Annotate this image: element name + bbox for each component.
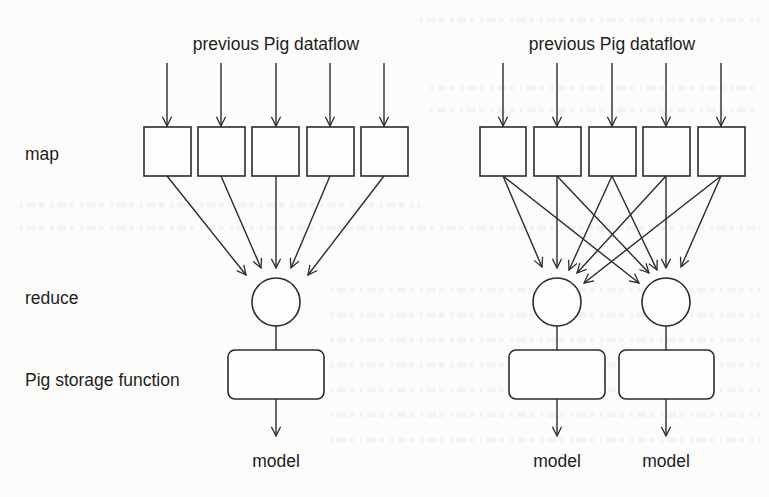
- diagram-canvas: map reduce Pig storage function previous…: [0, 0, 769, 497]
- left-diagram: previous Pig dataflow model: [144, 34, 408, 471]
- map-task-box: [534, 127, 581, 176]
- output-model-label: model: [252, 451, 300, 471]
- storage-function-box: [228, 350, 324, 399]
- reducer-node: [533, 278, 581, 326]
- map-task-box: [252, 127, 299, 176]
- storage-function-box: [619, 350, 714, 399]
- storage-function-box: [509, 350, 605, 399]
- map-task-box: [144, 127, 191, 176]
- row-label-reduce: reduce: [25, 288, 79, 308]
- map-task-box: [643, 127, 690, 176]
- map-task-box: [198, 127, 245, 176]
- map-task-box: [361, 127, 408, 176]
- left-input-arrows: [167, 63, 384, 126]
- left-dataflow-title: previous Pig dataflow: [193, 34, 360, 54]
- map-task-box: [589, 127, 636, 176]
- map-task-box: [307, 127, 354, 176]
- row-label-storage: Pig storage function: [25, 370, 180, 390]
- map-task-box: [480, 127, 526, 176]
- output-model-label: model: [533, 451, 581, 471]
- row-label-map: map: [25, 144, 59, 164]
- right-dataflow-title: previous Pig dataflow: [529, 34, 696, 54]
- output-model-label: model: [642, 451, 690, 471]
- reducer-node: [642, 278, 690, 326]
- right-diagram: previous Pig dataflow: [480, 34, 745, 471]
- right-input-arrows: [503, 63, 721, 126]
- left-map-tasks: [144, 127, 408, 176]
- reducer-node: [252, 278, 300, 326]
- right-map-tasks: [480, 127, 745, 176]
- map-task-box: [698, 127, 745, 176]
